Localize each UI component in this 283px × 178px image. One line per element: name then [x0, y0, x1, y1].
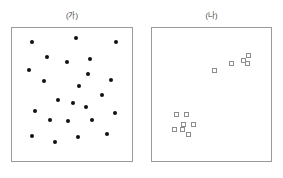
data-point-dot — [71, 101, 75, 105]
data-point-dot — [65, 60, 69, 64]
data-point-dot — [53, 140, 57, 144]
data-point-dot — [113, 111, 117, 115]
plot-area-ga — [12, 28, 132, 161]
data-point-dot — [30, 40, 34, 44]
data-point-square — [180, 127, 185, 132]
data-point-square — [174, 112, 179, 117]
data-point-dot — [77, 84, 81, 88]
plot-area-na — [152, 28, 271, 161]
data-point-dot — [45, 55, 49, 59]
data-point-dot — [30, 134, 34, 138]
panel-caption-na: (나) — [151, 11, 272, 21]
data-point-dot — [86, 72, 90, 76]
data-point-dot — [100, 93, 104, 97]
data-point-dot — [114, 40, 118, 44]
data-point-dot — [42, 79, 46, 83]
data-point-square — [186, 132, 191, 137]
data-point-square — [212, 68, 217, 73]
data-point-square — [246, 53, 251, 58]
panel-na — [151, 27, 272, 162]
data-point-square — [172, 127, 177, 132]
figure-root: (가) (나) — [0, 0, 283, 178]
data-point-dot — [56, 98, 60, 102]
data-point-dot — [76, 135, 80, 139]
panel-caption-ga: (가) — [11, 11, 133, 21]
data-point-dot — [84, 105, 88, 109]
panel-ga — [11, 27, 133, 162]
data-point-dot — [48, 118, 52, 122]
data-point-square — [229, 61, 234, 66]
data-point-square — [245, 61, 250, 66]
data-point-dot — [27, 68, 31, 72]
data-point-dot — [74, 36, 78, 40]
data-point-dot — [88, 57, 92, 61]
data-point-square — [191, 122, 196, 127]
data-point-square — [184, 112, 189, 117]
data-point-dot — [33, 109, 37, 113]
data-point-dot — [109, 78, 113, 82]
data-point-dot — [105, 132, 109, 136]
data-point-dot — [66, 119, 70, 123]
data-point-dot — [90, 118, 94, 122]
